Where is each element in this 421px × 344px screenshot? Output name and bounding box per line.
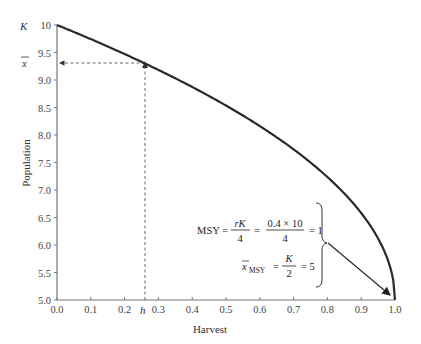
svg-text:rK: rK [234,218,246,229]
svg-text:K: K [284,253,293,264]
population-curve [57,25,395,300]
y-tick-label: 9.0 [38,75,51,86]
svg-text:MSY: MSY [249,266,266,275]
y-label-k: K [19,20,28,32]
x-label-h: h [140,304,146,316]
svg-text:0.4 × 10: 0.4 × 10 [268,218,303,229]
x-tick-label: 0.6 [253,304,266,315]
y-tick-label: 7.0 [38,185,51,196]
y-tick-label: 9.5 [38,48,51,59]
svg-text:4: 4 [282,233,288,244]
x-tick-label: 0.3 [152,304,165,315]
y-tick-label: 6.5 [38,213,51,224]
y-axis-title: Population [20,139,32,187]
x-tick-label: 1.0 [388,304,401,315]
y-tick-label: 5.5 [38,268,51,279]
y-tick-label: 8.0 [38,130,51,141]
svg-text:MSY =: MSY = [197,225,228,236]
y-label-xbar: x [21,57,27,69]
x-tick-label: 0.9 [355,304,368,315]
x-tick-label: 0.2 [118,304,131,315]
msy-arrow [328,243,390,295]
msy-annotation: MSY = rK 4 = 0.4 × 10 4 = 1 x MSY = K 2 … [197,203,390,295]
svg-text:= 1: = 1 [309,225,323,236]
svg-text:4: 4 [237,233,243,244]
chart: 5.05.56.06.57.07.58.08.59.09.510 0.00.10… [0,0,421,344]
brace-icon [316,203,327,287]
x-tick-label: 0.8 [321,304,334,315]
svg-text:=: = [254,225,260,236]
x-tick-label: 0.0 [50,304,63,315]
y-tick-label: 6.0 [38,240,51,251]
x-tick-label: 0.7 [287,304,300,315]
y-tick-label: 7.5 [38,158,51,169]
x-tick-label: 0.5 [219,304,232,315]
x-tick-label: 0.4 [186,304,200,315]
x-axis-title: Harvest [193,323,227,335]
y-tick-label: 5.0 [38,295,51,306]
x-tick-label: 0.1 [84,304,97,315]
y-ticks: 5.05.56.06.57.07.58.08.59.09.510 [38,20,57,306]
y-tick-label: 8.5 [38,103,51,114]
svg-text:2: 2 [286,268,291,279]
svg-text:x: x [241,261,247,272]
svg-text:= 5: = 5 [301,261,315,272]
svg-text:=: = [273,261,279,272]
y-tick-label: 10 [41,20,52,31]
